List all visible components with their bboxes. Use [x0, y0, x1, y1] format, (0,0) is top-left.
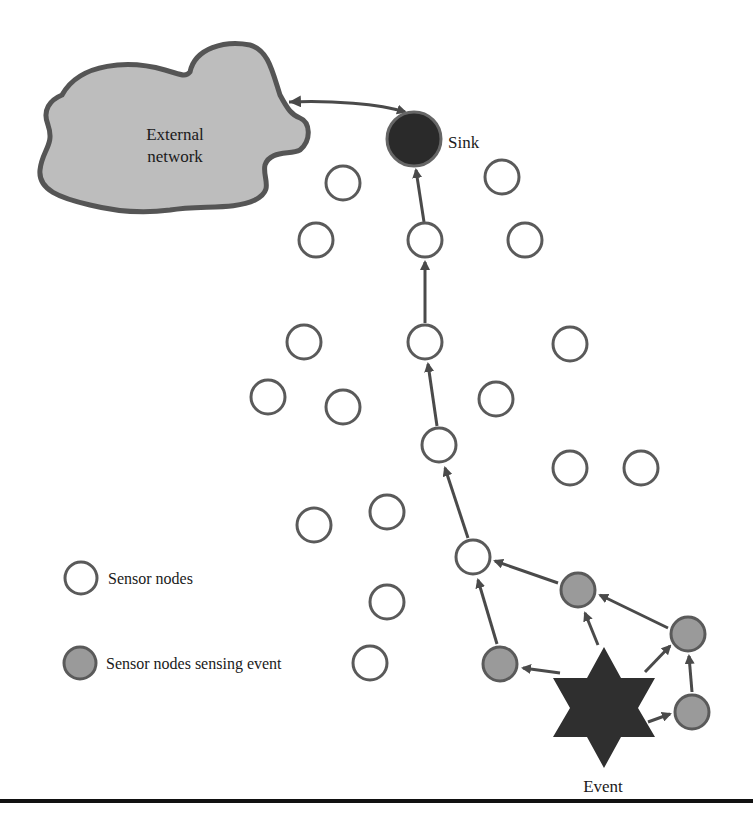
sensor-nodes — [251, 160, 658, 680]
sink-label: Sink — [448, 133, 480, 152]
sensor-node — [508, 223, 542, 257]
legend-item-sensor-nodes: Sensor nodes — [65, 562, 193, 594]
sensor-node — [624, 451, 658, 485]
sensor-node — [456, 540, 490, 574]
legend-item-sensing-nodes: Sensor nodes sensing event — [64, 647, 282, 679]
cloud-label-line2: network — [147, 147, 203, 166]
cloud-label-line1: External — [146, 125, 204, 144]
external-network-cloud: External network — [40, 44, 308, 212]
event-label: Event — [583, 777, 623, 796]
routing-path — [416, 170, 692, 692]
sensing-node — [483, 647, 517, 681]
sensor-node — [299, 223, 333, 257]
sensor-node — [287, 325, 321, 359]
legend-label: Sensor nodes — [108, 570, 193, 587]
sensor-node — [353, 646, 387, 680]
sensing-node-icon — [64, 647, 96, 679]
sensor-network-diagram: External network Sink Event Senso — [0, 0, 753, 818]
sensor-node — [251, 380, 285, 414]
sink-node: Sink — [387, 112, 480, 166]
sensing-node — [671, 617, 705, 651]
sensor-node — [422, 428, 456, 462]
sensor-node — [485, 160, 519, 194]
sensing-node — [675, 695, 709, 729]
sensor-node — [553, 327, 587, 361]
cloud-sink-link — [289, 101, 405, 112]
event-star: Event — [553, 647, 655, 796]
sensor-node — [370, 585, 404, 619]
sensor-node — [408, 223, 442, 257]
sensor-node — [408, 325, 442, 359]
sensing-node — [561, 573, 595, 607]
sensor-node — [297, 508, 331, 542]
legend-label: Sensor nodes sensing event — [106, 655, 282, 673]
sensor-node-icon — [65, 562, 97, 594]
bottom-rule — [0, 799, 753, 803]
sensor-node — [326, 390, 360, 424]
sensor-node — [479, 382, 513, 416]
legend: Sensor nodes Sensor nodes sensing event — [64, 562, 282, 679]
sensor-node — [326, 166, 360, 200]
sensor-node — [370, 495, 404, 529]
sensor-node — [553, 451, 587, 485]
